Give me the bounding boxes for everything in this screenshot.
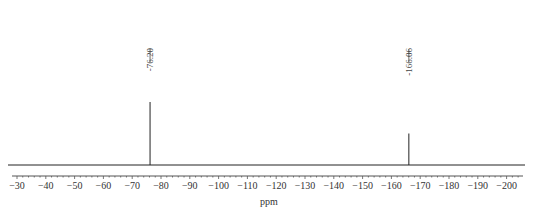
tick-label: −180 [439,180,460,191]
nmr-spectrum-chart: -76.20-166.06 −30−40−50−60−70−80−90−100−… [0,0,537,210]
tick-label: −30 [9,180,25,191]
tick-label: −130 [295,180,316,191]
x-axis-title: ppm [260,196,278,207]
tick-label: −200 [496,180,517,191]
peak-label: -166.06 [404,48,414,76]
tick-label: −50 [67,180,83,191]
tick-label: −140 [323,180,344,191]
spectrum-trace [8,102,525,165]
peak-labels: -76.20-166.06 [145,48,414,76]
tick-label: −70 [124,180,140,191]
tick-label: −80 [153,180,169,191]
tick-label: −90 [182,180,198,191]
tick-label: −120 [266,180,287,191]
tick-label: −160 [381,180,402,191]
tick-label: −170 [410,180,431,191]
x-axis: −30−40−50−60−70−80−90−100−110−120−130−14… [9,176,523,191]
tick-label: −190 [467,180,488,191]
peak-label: -76.20 [145,48,155,72]
tick-label: −100 [208,180,229,191]
tick-label: −110 [237,180,257,191]
tick-label: −150 [352,180,373,191]
tick-label: −60 [96,180,112,191]
tick-label: −40 [38,180,54,191]
